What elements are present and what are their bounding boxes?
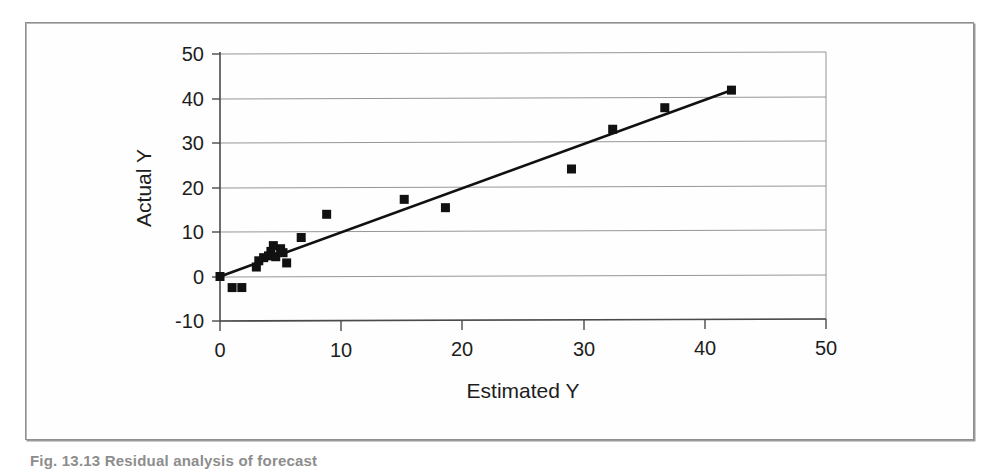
gridline-50 [220, 52, 826, 54]
data-point-marker [400, 195, 409, 204]
gridline-20 [220, 186, 826, 188]
scatter-chart: 50 40 30 20 10 0 -10 0 10 20 30 40 50 Ac… [26, 23, 973, 439]
gridline-0 [220, 275, 826, 277]
data-point-marker [322, 210, 331, 219]
x-tick-label-20: 20 [451, 338, 473, 360]
y-tick-label--10: -10 [175, 310, 204, 332]
x-tick-label-40: 40 [694, 337, 716, 359]
data-point-marker [228, 283, 237, 292]
data-point-marker [297, 233, 306, 242]
data-point-marker [282, 258, 291, 267]
y-axis-title: Actual Y [132, 149, 155, 227]
data-point-marker [441, 203, 450, 212]
data-series-layer [216, 86, 736, 292]
data-point-marker [279, 248, 288, 257]
x-tick-labels: 0 10 20 30 40 50 [214, 337, 837, 361]
figure-caption: Fig. 13.13 Residual analysis of forecast [30, 452, 930, 469]
x-axis-title: Estimated Y [467, 379, 580, 402]
y-tick-label-50: 50 [182, 43, 204, 65]
data-point-marker [237, 283, 246, 292]
data-point-marker [216, 272, 225, 281]
y-tick-label-10: 10 [182, 221, 204, 243]
data-point-marker [567, 164, 576, 173]
gridline-40 [220, 97, 826, 99]
x-tick-label-0: 0 [214, 339, 225, 361]
y-tick-label-40: 40 [182, 88, 204, 110]
gridline-10 [220, 230, 826, 232]
y-tick-label-30: 30 [182, 132, 204, 154]
data-point-marker [660, 103, 669, 112]
gridline-30 [220, 141, 826, 143]
figure-frame: 50 40 30 20 10 0 -10 0 10 20 30 40 50 Ac… [25, 22, 974, 440]
regression-fit-line [220, 90, 731, 276]
x-tick-label-50: 50 [815, 337, 837, 359]
data-point-marker [727, 86, 736, 95]
data-point-marker [608, 125, 617, 134]
x-tick-label-10: 10 [330, 339, 352, 361]
plot-area: 50 40 30 20 10 0 -10 0 10 20 30 40 50 Ac… [26, 23, 973, 439]
y-tick-label-0: 0 [193, 266, 204, 288]
y-tick-label-20: 20 [182, 177, 204, 199]
x-tick-label-30: 30 [573, 338, 595, 360]
y-tick-labels: 50 40 30 20 10 0 -10 [175, 43, 204, 332]
x-axis [220, 319, 826, 321]
